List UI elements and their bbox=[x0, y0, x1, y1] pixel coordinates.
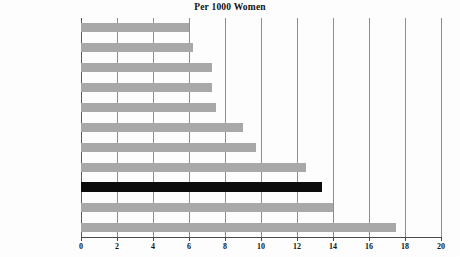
bar-row bbox=[81, 38, 441, 58]
bar-united-kingdom bbox=[81, 203, 333, 212]
bar-spain bbox=[81, 83, 212, 92]
bar-sweden bbox=[81, 223, 396, 232]
bar-netherlands bbox=[81, 63, 212, 72]
x-tick-16 bbox=[369, 237, 370, 241]
gridline-20 bbox=[441, 18, 442, 237]
x-tick-20 bbox=[441, 237, 442, 241]
x-tick-2 bbox=[117, 237, 118, 241]
bar-belgium bbox=[81, 43, 193, 52]
bar-row bbox=[81, 98, 441, 118]
bar-united-states bbox=[81, 182, 322, 192]
bar-row bbox=[81, 217, 441, 237]
x-tick-6 bbox=[189, 237, 190, 241]
chart-title: Per 1000 Women bbox=[0, 2, 460, 12]
x-tick-18 bbox=[405, 237, 406, 241]
x-tick-12 bbox=[297, 237, 298, 241]
x-tick-10 bbox=[261, 237, 262, 241]
bar-germany bbox=[81, 103, 216, 112]
x-tick-label-10: 10 bbox=[246, 242, 276, 251]
bar-row bbox=[81, 197, 441, 217]
x-tick-4 bbox=[153, 237, 154, 241]
x-tick-label-8: 8 bbox=[210, 242, 240, 251]
bar-row bbox=[81, 118, 441, 138]
x-tick-8 bbox=[225, 237, 226, 241]
bar-row bbox=[81, 157, 441, 177]
bar-chart: Per 1000 Women IrelandBelgiumNetherlands… bbox=[0, 0, 460, 257]
bar-ireland bbox=[81, 23, 189, 32]
x-tick-label-0: 0 bbox=[66, 242, 96, 251]
bar-finland bbox=[81, 123, 243, 132]
x-tick-0 bbox=[81, 237, 82, 241]
x-tick-label-20: 20 bbox=[426, 242, 456, 251]
x-tick-label-18: 18 bbox=[390, 242, 420, 251]
x-tick-label-12: 12 bbox=[282, 242, 312, 251]
bar-row bbox=[81, 137, 441, 157]
bar-italy bbox=[81, 143, 256, 152]
x-tick-14 bbox=[333, 237, 334, 241]
bar-row bbox=[81, 18, 441, 38]
bar-row bbox=[81, 78, 441, 98]
x-tick-label-2: 2 bbox=[102, 242, 132, 251]
x-tick-label-6: 6 bbox=[174, 242, 204, 251]
bar-denmark bbox=[81, 163, 306, 172]
bar-row bbox=[81, 58, 441, 78]
x-tick-label-14: 14 bbox=[318, 242, 348, 251]
x-tick-label-4: 4 bbox=[138, 242, 168, 251]
bar-row bbox=[81, 177, 441, 197]
plot-area: IrelandBelgiumNetherlandsSpainGermanyFin… bbox=[81, 18, 441, 237]
x-tick-label-16: 16 bbox=[354, 242, 384, 251]
